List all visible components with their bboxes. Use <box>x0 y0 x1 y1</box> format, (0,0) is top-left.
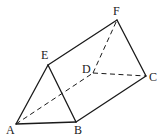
edge-FC <box>117 20 146 76</box>
label-F: F <box>113 4 120 18</box>
edge-AE <box>16 65 48 124</box>
label-A: A <box>6 123 15 137</box>
solid-edges <box>16 20 146 124</box>
label-C: C <box>149 70 157 84</box>
edge-AB <box>16 122 76 124</box>
label-D: D <box>82 62 91 76</box>
edge-AD <box>16 73 93 124</box>
prism-diagram: A B C D E F <box>0 0 168 138</box>
dashed-edges <box>16 20 146 124</box>
edge-DC <box>93 73 146 76</box>
vertex-labels: A B C D E F <box>6 4 157 137</box>
label-E: E <box>41 48 48 62</box>
edge-EF <box>48 20 117 65</box>
label-B: B <box>74 123 82 137</box>
edge-BC <box>76 76 146 122</box>
